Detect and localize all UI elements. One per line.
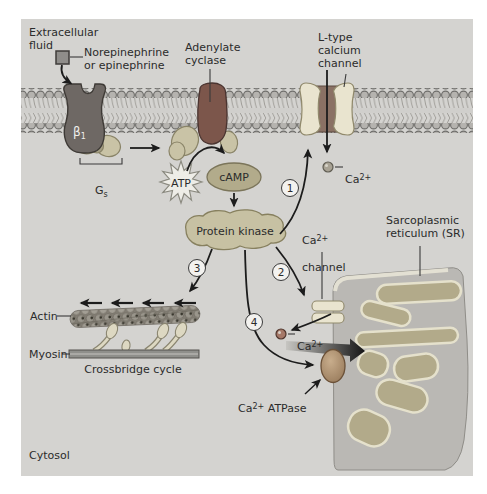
crossbridge-cycle-label: Crossbridge cycle: [84, 363, 181, 376]
sarcoplasmic-reticulum-label: Sarcoplasmic reticulum (SR): [386, 214, 465, 240]
diagram-artwork: [0, 0, 487, 494]
camp-label: cAMP: [219, 171, 249, 184]
beta1-receptor-label: β1: [73, 113, 86, 140]
sr-ca-channel-label: Ca2+ channel: [302, 221, 346, 287]
cytosol-label: Cytosol: [29, 449, 70, 462]
step-1-badge: 1: [281, 179, 299, 197]
protein-kinase-label: Protein kinase: [196, 225, 274, 238]
gs-protein-label: Gs: [95, 171, 108, 198]
figure-canvas: Extracellular fluid Norepinephrine or ep…: [0, 0, 487, 494]
step-2-badge: 2: [272, 263, 290, 281]
ca-atpase-pump-shape: [321, 350, 345, 383]
ca-ion-entry: [323, 162, 333, 172]
norepinephrine-label: Norepinephrine or epinephrine: [84, 46, 169, 72]
ca-ion-released: [276, 329, 286, 339]
ca-entry-label: Ca2+: [345, 160, 371, 187]
adenylate-cyclase-label: Adenylate cyclase: [185, 41, 240, 67]
step-3-badge: 3: [188, 259, 206, 277]
myosin-label: Myosin: [29, 348, 68, 361]
norepinephrine-ligand-shape: [56, 51, 69, 64]
ca-atpase-label: Ca2+ ATPase: [238, 389, 306, 416]
sarcoplasmic-reticulum: [333, 268, 468, 470]
step-4-badge: 4: [245, 313, 263, 331]
actin-label: Actin: [30, 310, 58, 323]
atp-label: ATP: [171, 177, 191, 190]
ca-released-label: Ca2+: [297, 327, 323, 354]
l-type-channel-label: L-type calcium channel: [318, 31, 362, 70]
